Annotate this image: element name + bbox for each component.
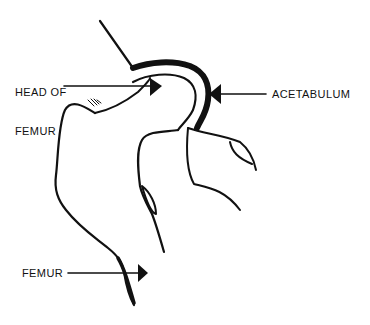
ischium-lower <box>187 128 240 210</box>
femur-shaft <box>118 258 134 303</box>
femoral-head-outline <box>133 75 196 130</box>
head-arrowhead <box>150 78 162 96</box>
pelvis-outline <box>100 21 133 68</box>
label-head-of-femur-line2: FEMUR <box>15 125 67 138</box>
label-femur: FEMUR <box>22 267 63 280</box>
ischium-upper <box>188 128 256 170</box>
femur-neck-top <box>95 78 150 113</box>
femur-outer-line <box>55 104 134 305</box>
label-head-of-femur-line1: HEAD OF <box>15 86 67 99</box>
femur-arrowhead <box>138 264 148 282</box>
acetabulum-arc <box>133 62 208 128</box>
label-head-of-femur: HEAD OF FEMUR <box>15 60 67 164</box>
label-acetabulum: ACETABULUM <box>272 88 350 101</box>
hip-joint-diagram: HEAD OF FEMUR ACETABULUM FEMUR <box>0 0 370 325</box>
hatch-marks <box>88 99 101 106</box>
